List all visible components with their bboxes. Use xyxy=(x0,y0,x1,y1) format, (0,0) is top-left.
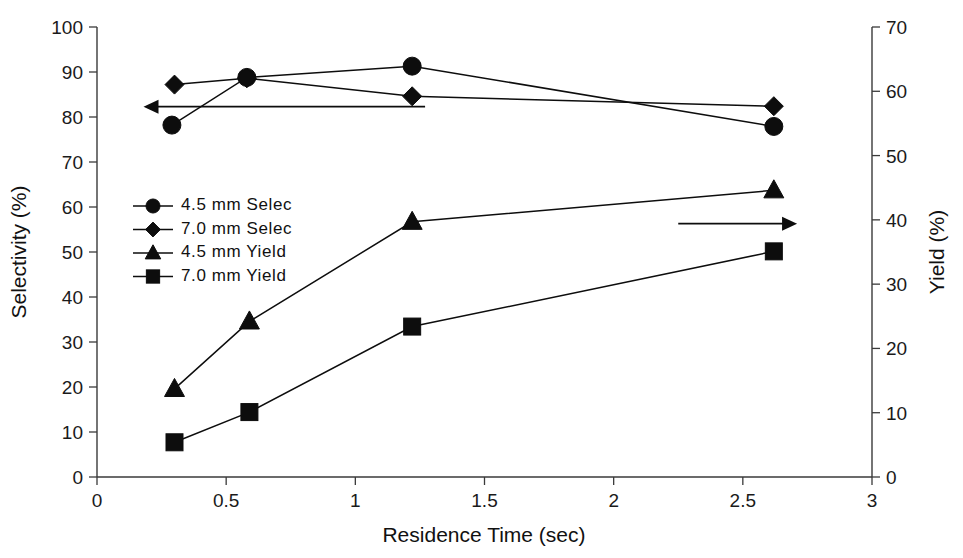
right-tick-label: 10 xyxy=(886,403,907,424)
x-axis-ticks: 00.511.522.53 xyxy=(92,477,878,511)
legend-item: 4.5 mm Yield xyxy=(133,242,286,261)
selectivity-yield-line-chart: 0102030405060708090100 010203040506070 0… xyxy=(0,0,963,558)
right-tick-label: 50 xyxy=(886,146,907,167)
marker-square xyxy=(404,318,421,335)
marker-diamond xyxy=(403,87,422,106)
arrow-head xyxy=(782,217,797,231)
arrow-head xyxy=(144,100,159,114)
legend-label: 7.0 mm Yield xyxy=(181,266,286,285)
left-tick-label: 20 xyxy=(62,377,83,398)
x-tick-label: 2.5 xyxy=(730,490,756,511)
marker-circle xyxy=(163,116,181,134)
x-tick-label: 3 xyxy=(867,490,878,511)
right-axis-ticks: 010203040506070 xyxy=(872,17,907,488)
left-tick-label: 10 xyxy=(62,422,83,443)
series-polyline xyxy=(175,78,774,106)
y2-axis-title: Yield (%) xyxy=(925,210,948,294)
chart-legend: 4.5 mm Selec7.0 mm Selec4.5 mm Yield7.0 … xyxy=(133,195,292,285)
marker-diamond xyxy=(146,222,161,237)
legend-item: 4.5 mm Selec xyxy=(133,195,292,214)
right-tick-label: 70 xyxy=(886,17,907,38)
right-tick-label: 20 xyxy=(886,338,907,359)
marker-triangle xyxy=(764,180,784,198)
marker-circle xyxy=(765,117,783,135)
left-tick-label: 80 xyxy=(62,107,83,128)
series-circle xyxy=(163,57,783,135)
x-tick-label: 1.5 xyxy=(471,490,497,511)
left-axis-pointer xyxy=(144,100,426,114)
legend-label: 7.0 mm Selec xyxy=(181,219,292,238)
x-tick-label: 2 xyxy=(608,490,619,511)
left-tick-label: 40 xyxy=(62,287,83,308)
marker-square xyxy=(146,270,159,283)
chart-container: 0102030405060708090100 010203040506070 0… xyxy=(0,0,963,558)
marker-triangle xyxy=(165,378,185,396)
series-polyline xyxy=(172,66,774,126)
left-tick-label: 90 xyxy=(62,62,83,83)
legend-item: 7.0 mm Yield xyxy=(133,266,286,285)
marker-square xyxy=(166,434,183,451)
left-tick-label: 0 xyxy=(72,467,83,488)
left-tick-label: 60 xyxy=(62,197,83,218)
left-tick-label: 70 xyxy=(62,152,83,173)
marker-diamond xyxy=(165,75,184,94)
marker-square xyxy=(765,243,782,260)
marker-circle xyxy=(403,57,421,75)
marker-square xyxy=(241,404,258,421)
marker-triangle xyxy=(402,211,422,229)
right-tick-label: 40 xyxy=(886,210,907,231)
left-axis-ticks: 0102030405060708090100 xyxy=(51,17,97,488)
x-axis-title: Residence Time (sec) xyxy=(382,523,585,546)
y-axis-title: Selectivity (%) xyxy=(7,185,30,318)
legend-item: 7.0 mm Selec xyxy=(133,219,292,238)
x-tick-label: 0.5 xyxy=(213,490,239,511)
marker-triangle xyxy=(145,245,161,259)
right-tick-label: 30 xyxy=(886,274,907,295)
legend-label: 4.5 mm Selec xyxy=(181,195,292,214)
marker-circle xyxy=(146,199,160,213)
marker-diamond xyxy=(764,97,783,116)
left-tick-label: 30 xyxy=(62,332,83,353)
legend-label: 4.5 mm Yield xyxy=(181,242,286,261)
left-tick-label: 100 xyxy=(51,17,83,38)
right-axis-pointer xyxy=(678,217,797,231)
right-tick-label: 60 xyxy=(886,81,907,102)
x-tick-label: 1 xyxy=(350,490,361,511)
x-tick-label: 0 xyxy=(92,490,103,511)
left-tick-label: 50 xyxy=(62,242,83,263)
marker-triangle xyxy=(239,311,259,329)
right-tick-label: 0 xyxy=(886,467,897,488)
